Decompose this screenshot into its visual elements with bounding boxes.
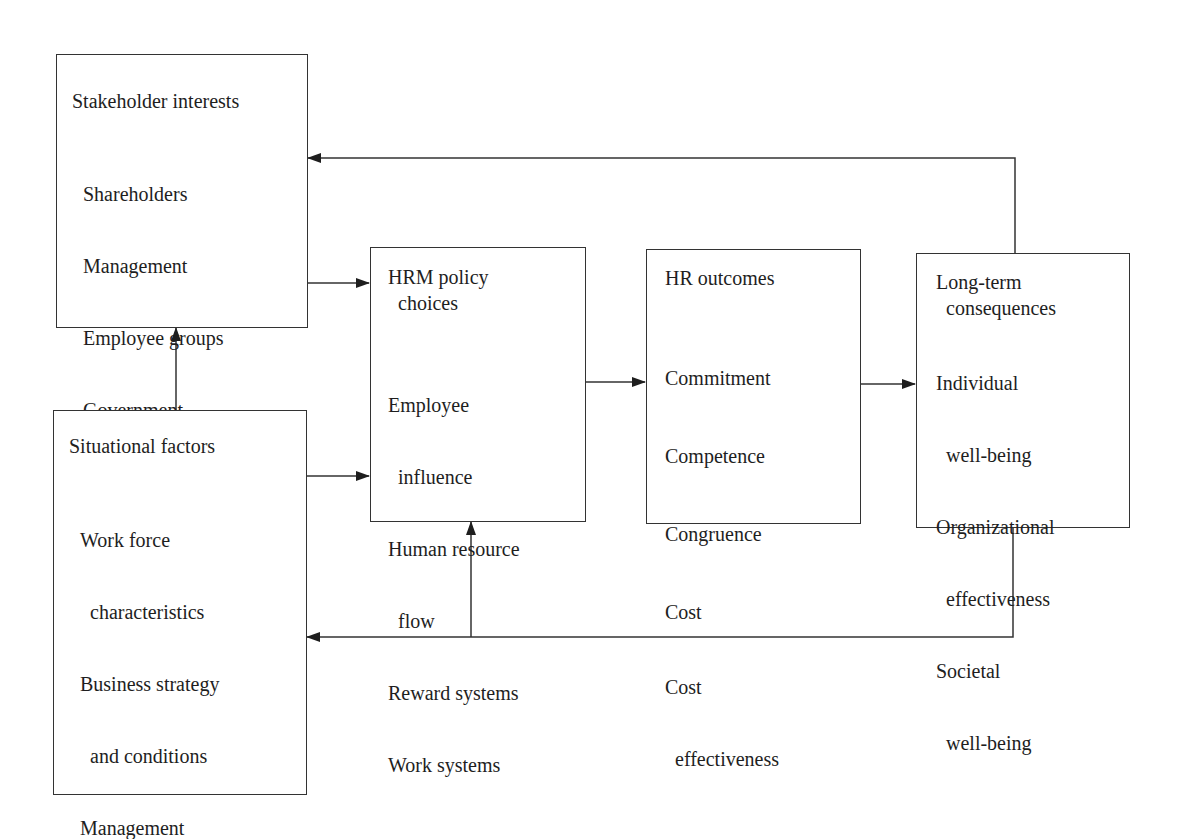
situational-factors-list: Work force characteristics Business stra… [80,481,219,839]
long-term-consequences-list: Individual well-being Organizational eff… [936,324,1054,802]
list-item: Work force [80,527,219,553]
situational-factors-box: Situational factors Work force character… [53,410,307,795]
list-item: effectiveness [936,586,1054,612]
stakeholder-interests-title: Stakeholder interests [72,89,239,113]
list-item: effectiveness [665,746,779,772]
list-item: Management [83,253,224,279]
list-item: Employee [388,392,520,418]
list-item: and conditions [80,743,219,769]
list-item: Individual [936,370,1054,396]
list-item: Work systems [388,752,520,778]
hr-outcomes-list: Commitment Competence Congruence Cost Co… [665,316,779,818]
list-item: characteristics [80,599,219,625]
list-item: Shareholders [83,181,224,207]
list-item: well-being [936,442,1054,468]
list-item: Management [80,815,219,839]
list-item: flow [388,608,520,634]
list-item: well-being [936,730,1054,756]
hrm-policy-choices-box: HRM policy choices Employee influence Hu… [370,247,586,522]
list-item: Cost [665,674,779,700]
list-item: Organizational [936,514,1054,540]
long-term-consequences-title: Long-term consequences [936,269,1056,321]
stakeholder-interests-box: Stakeholder interests Shareholders Manag… [56,54,308,328]
list-item: Commitment [665,362,779,394]
list-item: Cost [665,596,779,628]
list-item: Congruence [665,518,779,550]
list-item: Human resource [388,536,520,562]
list-item: Reward systems [388,680,520,706]
list-item: Employee groups [83,325,224,351]
list-item: Societal [936,658,1054,684]
long-term-consequences-box: Long-term consequences Individual well-b… [916,253,1130,528]
hrm-policy-choices-list: Employee influence Human resource flow R… [388,346,520,824]
list-item: Competence [665,440,779,472]
list-item: influence [388,464,520,490]
hr-outcomes-title: HR outcomes [665,266,774,290]
hrm-policy-choices-title: HRM policy choices [388,264,489,316]
situational-factors-title: Situational factors [69,434,215,458]
list-item: Business strategy [80,671,219,697]
hr-outcomes-box: HR outcomes Commitment Competence Congru… [646,249,861,524]
